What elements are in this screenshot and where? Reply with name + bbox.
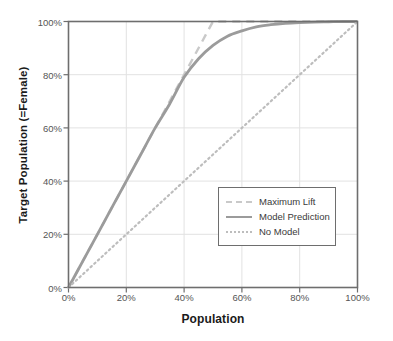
x-tick-label: 100%	[338, 292, 378, 303]
legend-swatch-dotted-icon	[226, 227, 252, 237]
legend-item-model-prediction: Model Prediction	[219, 209, 335, 224]
legend-item-maximum-lift: Maximum Lift	[219, 194, 335, 209]
y-axis-title: Target Population (=Female)	[17, 30, 29, 260]
x-tick-label: 20%	[106, 292, 146, 303]
legend-swatch-dashed-icon	[226, 197, 252, 207]
data-series-layer	[69, 21, 358, 287]
legend-swatch-solid-icon	[226, 212, 252, 222]
x-tick-label: 80%	[280, 292, 320, 303]
chart-legend: Maximum Lift Model Prediction No Model	[218, 187, 336, 246]
x-tick-label: 0%	[49, 292, 89, 303]
legend-item-no-model: No Model	[219, 224, 335, 239]
legend-label-no-model: No Model	[259, 226, 300, 237]
chart-container: 0%20%40%60%80%100% 0%20%40%60%80%100% Ta…	[0, 0, 393, 341]
x-axis-title: Population	[68, 312, 358, 326]
x-tick-label: 40%	[164, 292, 204, 303]
legend-label-model-prediction: Model Prediction	[259, 211, 330, 222]
series-line-no-model	[69, 22, 358, 288]
y-tick-label: 100%	[22, 16, 62, 27]
tick-marks	[64, 22, 358, 293]
x-tick-label: 60%	[222, 292, 262, 303]
legend-label-maximum-lift: Maximum Lift	[259, 196, 315, 207]
